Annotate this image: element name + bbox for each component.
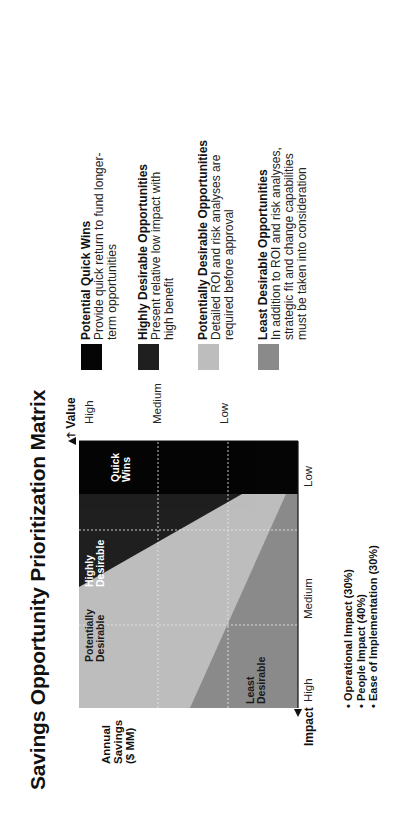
value-tick-medium: Medium — [151, 383, 163, 424]
legend-item-quick-wins: Potential Quick Wins Provide quick retur… — [80, 10, 119, 340]
label-least-desirable: LeastDesirable — [245, 657, 267, 704]
legend-item-highly-desirable: Highly Desirable Opportunities Present r… — [137, 10, 176, 340]
criteria-item: People Impact (40%) — [355, 545, 368, 708]
legend-swatch — [198, 344, 219, 370]
page-title: Savings Opportunity Prioritization Matri… — [26, 390, 50, 790]
matrix-slide: Savings Opportunity Prioritization Matri… — [0, 0, 401, 814]
label-highly-desirable: HighlyDesirable — [84, 540, 106, 587]
legend-swatch — [138, 344, 159, 370]
impact-axis-title: Impact — [302, 707, 316, 746]
label-potentially-desirable: PotentiallyDesirable — [84, 609, 106, 662]
value-arrow-icon — [68, 437, 76, 445]
impact-arrow-icon — [294, 709, 302, 717]
legend-item-least-desirable: Least Desirable Opportunities In additio… — [257, 10, 309, 340]
annual-savings-label: Annual Savings ($ MM) — [100, 720, 136, 764]
impact-criteria-list: Operational Impact (30%) People Impact (… — [342, 545, 380, 708]
legend-item-potentially-desirable: Potentially Desirable Opportunities Deta… — [197, 10, 236, 340]
legend-swatch — [258, 344, 279, 370]
criteria-item: Ease of Implementation (30%) — [367, 545, 380, 708]
impact-tick-high: High — [302, 678, 314, 702]
impact-tick-medium: Medium — [302, 578, 314, 619]
label-quick-wins: QuickWins — [110, 453, 132, 482]
criteria-item: Operational Impact (30%) — [342, 545, 355, 708]
value-tick-low: Low — [218, 403, 230, 424]
value-tick-high: High — [83, 400, 95, 424]
legend-swatch — [81, 344, 102, 370]
impact-tick-low: Low — [302, 466, 314, 487]
